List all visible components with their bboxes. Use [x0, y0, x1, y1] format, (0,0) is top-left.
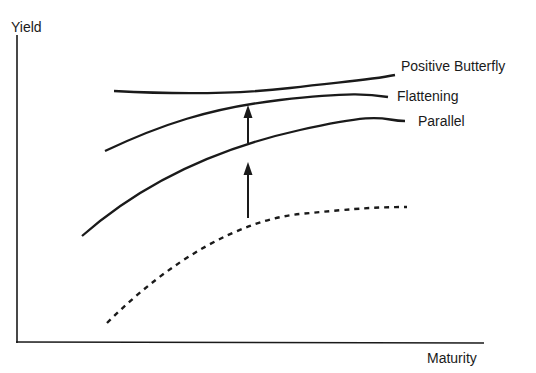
- label-parallel: Parallel: [418, 113, 465, 129]
- arrow-up-icon: [244, 105, 253, 118]
- flattening-curve: [105, 94, 388, 151]
- y-axis-label: Yield: [11, 19, 42, 35]
- yield-curve-diagram: [0, 0, 536, 373]
- label-positive-butterfly: Positive Butterfly: [401, 58, 505, 74]
- x-axis: [16, 342, 484, 343]
- arrow-up-icon: [244, 162, 253, 175]
- positive-butterfly-curve: [114, 75, 395, 93]
- label-flattening: Flattening: [397, 88, 458, 104]
- initial-curve-dotted: [107, 207, 407, 323]
- x-axis-label: Maturity: [427, 350, 477, 366]
- parallel-curve: [82, 118, 405, 236]
